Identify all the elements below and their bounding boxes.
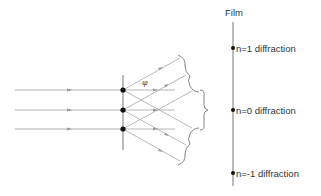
brace-order-0 <box>200 90 208 130</box>
slit-dot <box>120 87 125 92</box>
ray-order-minus-1 <box>123 90 192 128</box>
angle-phi-label: φ <box>142 79 148 87</box>
brace-order-plus-1 <box>178 55 199 92</box>
incoming-arrow-icons <box>67 89 72 131</box>
order-label-minus-1: n=-1 diffraction <box>236 169 299 179</box>
ray-order-minus-1 <box>123 110 186 145</box>
arrow-icon <box>67 109 72 112</box>
film-spot-order-0 <box>231 108 235 112</box>
film-label: Film <box>225 8 243 18</box>
ray-order-minus-1 <box>123 129 180 161</box>
arrow-icon <box>67 128 72 131</box>
order-label-plus-1: n=1 diffraction <box>236 44 296 54</box>
diffracted-arrow-icons <box>153 67 169 152</box>
film-spot-order-minus-1 <box>231 171 235 175</box>
brace-order-minus-1 <box>178 128 199 165</box>
ray-order-plus-1 <box>123 58 180 90</box>
slit-dot <box>120 107 125 112</box>
order-label-0: n=0 diffraction <box>236 106 296 116</box>
diagram-canvas <box>0 0 321 196</box>
film-spot-order-plus-1 <box>231 46 235 50</box>
slit-dot <box>120 126 125 131</box>
diffracted-rays <box>123 58 192 161</box>
brace-group <box>178 55 208 165</box>
ray-order-plus-1 <box>123 75 186 110</box>
arrow-icon <box>67 89 72 92</box>
